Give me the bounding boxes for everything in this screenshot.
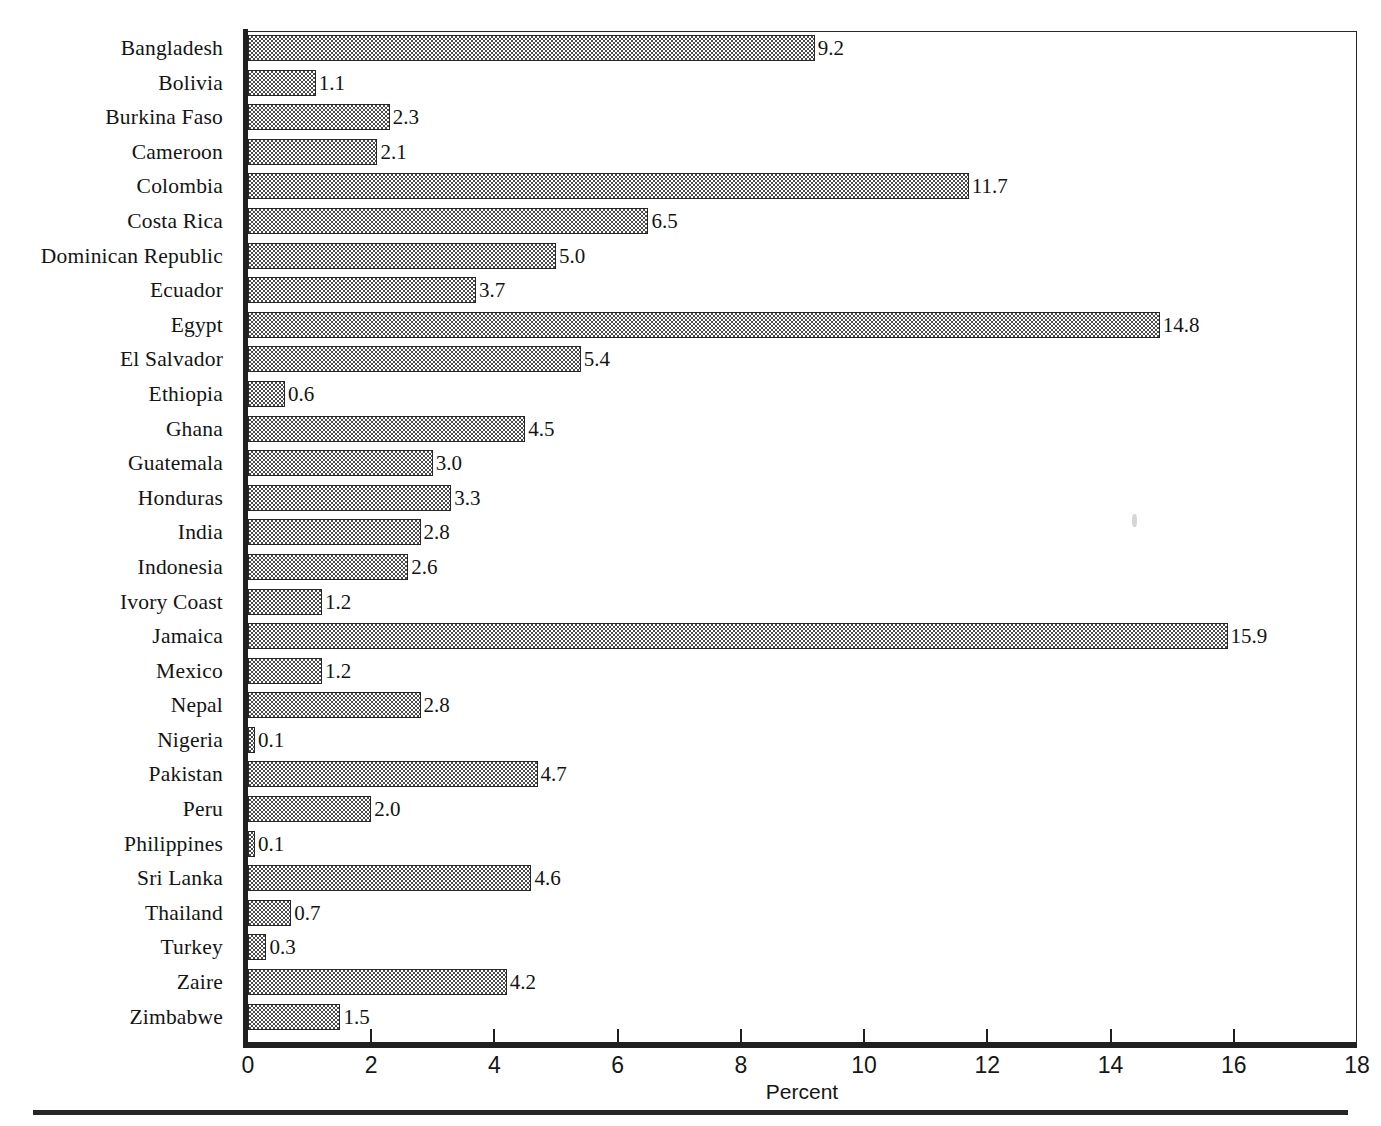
bar-row: 3.7 (248, 273, 1357, 308)
bar-row: 4.6 (248, 861, 1357, 896)
bar (248, 727, 255, 753)
bar-value-label: 2.8 (421, 517, 450, 547)
category-label: Pakistan (0, 757, 223, 792)
value-axis-title: Percent (766, 1080, 838, 1104)
bar (248, 519, 421, 545)
bar-value-label: 0.1 (255, 829, 284, 859)
bar (248, 589, 322, 615)
bar-row: 1.1 (248, 66, 1357, 101)
bar (248, 796, 371, 822)
tick-mark (986, 1029, 988, 1042)
tick-label: 10 (851, 1052, 877, 1079)
bar-row: 4.2 (248, 965, 1357, 1000)
bar (248, 450, 433, 476)
category-label: Bolivia (0, 66, 223, 101)
bar-value-label: 4.2 (507, 967, 536, 997)
bar-row: 11.7 (248, 169, 1357, 204)
bar-value-label: 1.2 (322, 587, 351, 617)
bar-row: 1.5 (248, 1000, 1357, 1035)
bar-value-label: 1.5 (340, 1002, 369, 1032)
bar-value-label: 0.1 (255, 725, 284, 755)
bar-value-label: 2.1 (377, 137, 406, 167)
footer-rule (33, 1110, 1348, 1115)
bar-row: 0.7 (248, 896, 1357, 931)
category-label: Egypt (0, 308, 223, 343)
bar-row: 14.8 (248, 308, 1357, 343)
bar (248, 35, 815, 61)
bar-row: 3.3 (248, 481, 1357, 516)
bar (248, 104, 390, 130)
tick-mark (617, 1029, 619, 1042)
bar (248, 1004, 340, 1030)
bar-row: 0.3 (248, 930, 1357, 965)
bar-value-label: 11.7 (969, 171, 1008, 201)
bar-row: 1.2 (248, 585, 1357, 620)
tick-label: 6 (611, 1052, 624, 1079)
bars-layer: 9.21.12.32.111.76.55.03.714.85.40.64.53.… (248, 31, 1357, 1044)
bar (248, 381, 285, 407)
bar (248, 485, 451, 511)
bar-value-label: 0.6 (285, 379, 314, 409)
tick-mark (740, 1029, 742, 1042)
tick-label: 4 (488, 1052, 501, 1079)
bar-value-label: 4.5 (525, 414, 554, 444)
category-label: Honduras (0, 481, 223, 516)
bar (248, 173, 969, 199)
bar-row: 2.8 (248, 515, 1357, 550)
bar-value-label: 2.3 (390, 102, 419, 132)
category-label: Bangladesh (0, 31, 223, 66)
category-label: Turkey (0, 930, 223, 965)
tick-label: 2 (365, 1052, 378, 1079)
bar-row: 3.0 (248, 446, 1357, 481)
bar-chart-figure: BangladeshBoliviaBurkina FasoCameroonCol… (0, 0, 1381, 1126)
bar-value-label: 5.0 (556, 241, 585, 271)
bar-row: 2.8 (248, 688, 1357, 723)
category-label: Nepal (0, 688, 223, 723)
tick-label: 12 (975, 1052, 1001, 1079)
bar-value-label: 3.7 (476, 275, 505, 305)
category-label: Colombia (0, 169, 223, 204)
tick-mark (1233, 1029, 1235, 1042)
tick-label: 14 (1098, 1052, 1124, 1079)
tick-mark (1110, 1029, 1112, 1042)
bar (248, 416, 525, 442)
category-label: Ghana (0, 412, 223, 447)
bar-value-label: 1.1 (316, 68, 345, 98)
tick-label: 18 (1344, 1052, 1370, 1079)
bar-value-label: 4.6 (531, 863, 560, 893)
tick-label: 8 (734, 1052, 747, 1079)
bar (248, 70, 316, 96)
bar (248, 761, 538, 787)
bar-row: 0.1 (248, 827, 1357, 862)
category-label: Sri Lanka (0, 861, 223, 896)
bar-value-label: 1.2 (322, 656, 351, 686)
bar-row: 2.6 (248, 550, 1357, 585)
category-label: Costa Rica (0, 204, 223, 239)
category-label: Ecuador (0, 273, 223, 308)
category-axis-labels: BangladeshBoliviaBurkina FasoCameroonCol… (0, 31, 223, 1034)
bar-row: 0.6 (248, 377, 1357, 412)
bar (248, 346, 581, 372)
category-label: Ivory Coast (0, 585, 223, 620)
tick-label: 16 (1221, 1052, 1247, 1079)
bar-row: 0.1 (248, 723, 1357, 758)
bar (248, 243, 556, 269)
category-label: Dominican Republic (0, 239, 223, 274)
tick-mark (863, 1029, 865, 1042)
bar (248, 623, 1228, 649)
bar-value-label: 14.8 (1160, 310, 1200, 340)
category-label: Jamaica (0, 619, 223, 654)
tick-mark (370, 1029, 372, 1042)
bar-value-label: 0.7 (291, 898, 320, 928)
tick-mark (493, 1029, 495, 1042)
bar-value-label: 2.6 (408, 552, 437, 582)
bar (248, 139, 377, 165)
bar-row: 2.0 (248, 792, 1357, 827)
bar (248, 554, 408, 580)
bar-row: 4.5 (248, 412, 1357, 447)
category-label: Ethiopia (0, 377, 223, 412)
bar-value-label: 3.0 (433, 448, 462, 478)
bar-row: 4.7 (248, 757, 1357, 792)
bar (248, 934, 266, 960)
category-label: Mexico (0, 654, 223, 689)
